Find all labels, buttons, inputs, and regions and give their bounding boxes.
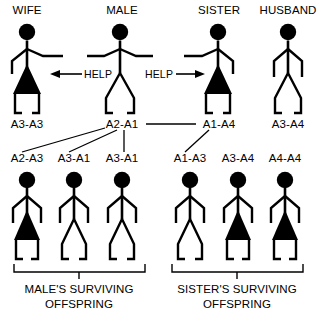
figure-child-2 — [60, 172, 88, 259]
genotype-child-3: A3-A1 — [106, 152, 138, 164]
skirt-triangle — [225, 210, 251, 240]
left-leg — [275, 73, 288, 113]
right-arm — [122, 196, 136, 223]
parent-title-husband: HUSBAND — [260, 4, 317, 16]
arrow-head-left-icon — [50, 70, 60, 78]
right-leg — [74, 219, 86, 259]
figure-child-3 — [108, 172, 136, 259]
head-icon — [112, 24, 128, 40]
left-arm — [274, 49, 288, 77]
right-arm — [288, 49, 302, 77]
head-icon — [182, 172, 198, 188]
right-leg — [32, 94, 39, 113]
parent-title-male: MALE — [106, 4, 138, 16]
left-leg — [62, 219, 74, 259]
head-icon — [230, 172, 246, 188]
right-leg — [223, 94, 230, 113]
right-leg — [120, 73, 134, 113]
right-arm — [190, 196, 204, 223]
head-icon — [66, 172, 82, 188]
genotype-child-1: A2-A3 — [11, 152, 43, 164]
bracket-outline — [172, 264, 303, 272]
left-leg — [227, 240, 234, 259]
figure-wife: A3-A3 — [11, 24, 63, 130]
descent-line-to-child-2 — [69, 130, 117, 152]
right-leg — [288, 73, 301, 113]
help-arrow-right: HELP — [145, 68, 205, 80]
right-leg — [122, 219, 134, 259]
left-arm — [108, 196, 122, 223]
group-label-sister-line1: SISTER'S SURVIVING — [177, 283, 296, 295]
genotype-child-4: A1-A3 — [174, 152, 206, 164]
genotype-male: A2-A1 — [106, 118, 138, 130]
left-leg — [110, 219, 122, 259]
arrow-head-right-icon — [195, 70, 205, 78]
figure-child-5 — [224, 172, 252, 259]
genotype-child-2: A3-A1 — [58, 152, 90, 164]
right-arm-extended — [120, 49, 153, 56]
bracket-sister-group — [172, 264, 303, 279]
help-label-right: HELP — [145, 68, 173, 80]
head-icon — [210, 24, 226, 40]
head-icon — [19, 24, 35, 40]
help-label-left: HELP — [84, 68, 112, 80]
right-leg — [242, 240, 249, 259]
left-arm — [60, 196, 74, 223]
genotype-child-6: A4-A4 — [269, 152, 302, 164]
left-leg — [178, 219, 190, 259]
parent-title-wife: WIFE — [12, 4, 41, 16]
skirt-triangle — [272, 210, 298, 240]
parent-title-sister: SISTER — [198, 4, 240, 16]
figure-child-6 — [271, 172, 299, 259]
group-label-male-line1: MALE'S SURVIVING — [24, 283, 133, 295]
genotype-child-5: A3-A4 — [222, 152, 255, 164]
group-label-male-line2: OFFSPRING — [45, 298, 113, 310]
figure-child-4 — [176, 172, 204, 259]
left-arm-extended — [87, 49, 120, 56]
descent-line-to-child-1 — [22, 128, 105, 152]
genotype-wife: A3-A3 — [11, 118, 43, 130]
left-leg — [206, 94, 213, 113]
right-leg — [289, 240, 296, 259]
skirt-triangle — [14, 210, 40, 240]
figure-sister: A1-A4 — [184, 24, 236, 130]
figure-child-1 — [13, 172, 41, 259]
bracket-outline — [14, 264, 145, 272]
left-leg — [15, 94, 22, 113]
genotype-husband: A3-A4 — [272, 118, 305, 130]
right-arm — [74, 196, 88, 223]
genotype-sister: A1-A4 — [203, 118, 236, 130]
pedigree-svg: WIFE MALE SISTER HUSBAND A3-A3 A2-A1 — [0, 0, 321, 314]
head-icon — [19, 172, 35, 188]
right-arm-extended — [27, 49, 63, 56]
left-leg — [16, 240, 23, 259]
bracket-male-group — [14, 264, 145, 279]
figure-husband: A3-A4 — [272, 24, 305, 130]
head-icon — [280, 24, 296, 40]
head-icon — [277, 172, 293, 188]
help-arrow-left: HELP — [50, 68, 112, 80]
skirt-triangle — [204, 64, 232, 94]
head-icon — [114, 172, 130, 188]
left-arm-extended — [184, 49, 218, 56]
right-leg — [31, 240, 38, 259]
descent-line-to-child-4 — [185, 130, 209, 152]
group-label-sister-line2: OFFSPRING — [203, 298, 271, 310]
skirt-triangle — [13, 64, 41, 94]
left-arm — [176, 196, 190, 223]
left-leg — [274, 240, 281, 259]
pedigree-diagram-canvas: WIFE MALE SISTER HUSBAND A3-A3 A2-A1 — [0, 0, 321, 314]
right-leg — [190, 219, 202, 259]
